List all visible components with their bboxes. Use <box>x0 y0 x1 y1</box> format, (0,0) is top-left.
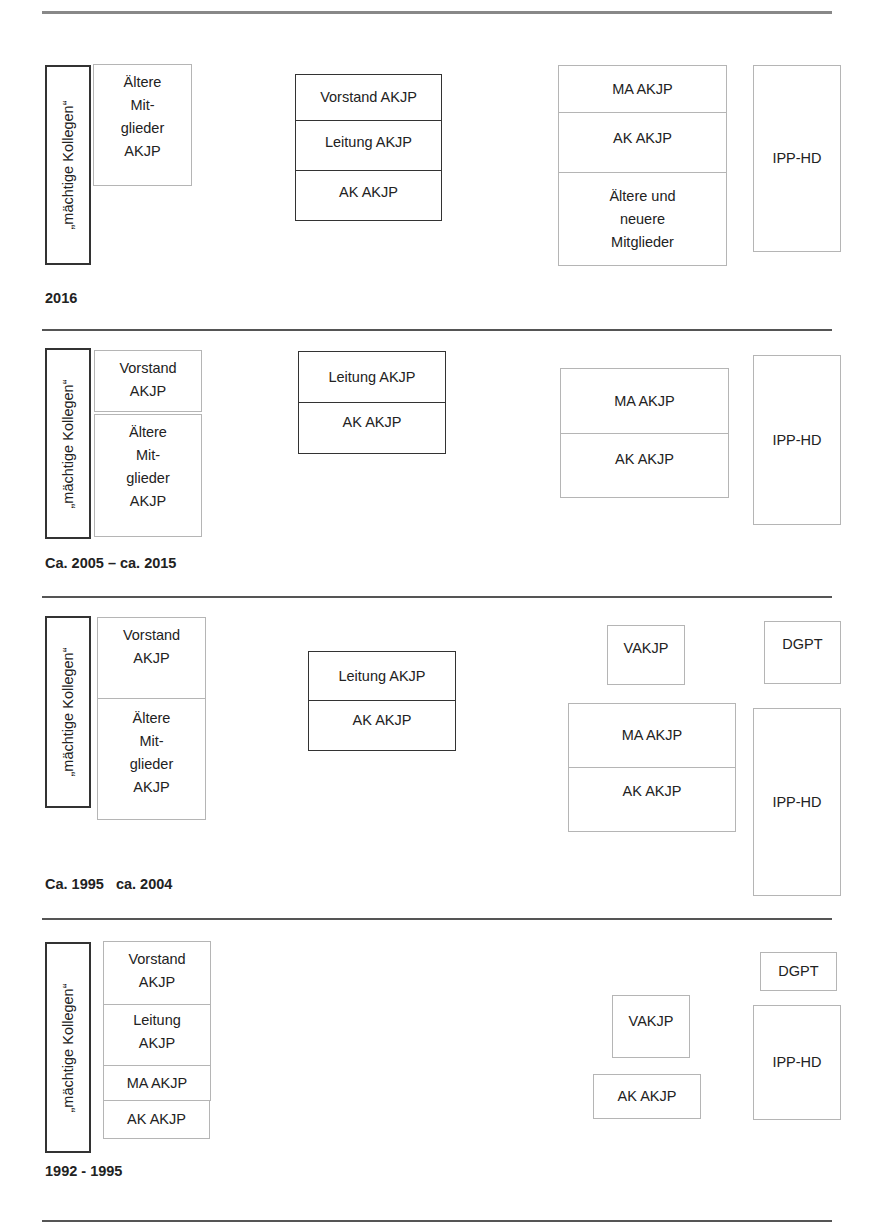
board-akjp-box: Vorstand AKJP <box>97 617 206 699</box>
ipp-hd-box: IPP-HD <box>753 1005 841 1120</box>
powerful-colleagues-box: „mächtige Kollegen“ <box>45 65 91 265</box>
ma-akjp-box: MA AKJP <box>560 368 729 434</box>
ak-akjp-box: AK AKJP <box>308 700 456 751</box>
ak-akjp-box: AK AKJP <box>568 767 736 832</box>
powerful-colleagues-box: „mächtige Kollegen“ <box>45 942 91 1153</box>
powerful-colleagues-box: „mächtige Kollegen“ <box>45 348 91 539</box>
header-rule <box>42 11 832 14</box>
older-members-box: Ältere Mit- glieder AKJP <box>94 414 202 537</box>
ipp-hd-box: IPP-HD <box>753 355 841 525</box>
section-divider <box>42 918 832 920</box>
dgpt-box: DGPT <box>764 621 841 684</box>
older-newer-members-box: Ältere und neuere Mitglieder <box>558 172 727 266</box>
management-akjp-box: Leitung AKJP <box>308 651 456 701</box>
management-akjp-box: Leitung AKJP <box>295 120 442 171</box>
ak-akjp-box: AK AKJP <box>103 1100 210 1139</box>
ak-akjp-box: AK AKJP <box>295 170 442 221</box>
dgpt-box: DGPT <box>760 952 837 991</box>
period-label: 2016 <box>45 290 77 306</box>
section-divider <box>42 1220 832 1222</box>
older-members-box: Ältere Mit- glieder AKJP <box>97 698 206 820</box>
vakjp-box: VAKJP <box>607 625 685 685</box>
powerful-colleagues-box: „mächtige Kollegen“ <box>45 616 91 808</box>
older-members-box: Ältere Mit- glieder AKJP <box>93 64 192 186</box>
ma-akjp-box: MA AKJP <box>558 65 727 113</box>
ma-akjp-box: MA AKJP <box>568 703 736 768</box>
period-label: 1992 - 1995 <box>45 1163 122 1179</box>
period-label: Ca. 1995 ca. 2004 <box>45 876 172 892</box>
management-akjp-box: Leitung AKJP <box>103 1004 211 1066</box>
ipp-hd-box: IPP-HD <box>753 65 841 252</box>
vakjp-box: VAKJP <box>612 995 690 1058</box>
ak-akjp-box: AK AKJP <box>298 402 446 454</box>
board-akjp-box: Vorstand AKJP <box>103 941 211 1005</box>
ak-akjp-box: AK AKJP <box>558 112 727 173</box>
board-akjp-box: Vorstand AKJP <box>94 350 202 412</box>
ma-akjp-box: MA AKJP <box>103 1065 211 1101</box>
board-akjp-box: Vorstand AKJP <box>295 74 442 121</box>
section-divider <box>42 596 832 598</box>
ak-akjp-box: AK AKJP <box>560 433 729 498</box>
ak-akjp-box: AK AKJP <box>593 1074 701 1119</box>
management-akjp-box: Leitung AKJP <box>298 351 446 403</box>
ipp-hd-box: IPP-HD <box>753 708 841 896</box>
period-label: Ca. 2005 – ca. 2015 <box>45 555 176 571</box>
section-divider <box>42 329 832 331</box>
